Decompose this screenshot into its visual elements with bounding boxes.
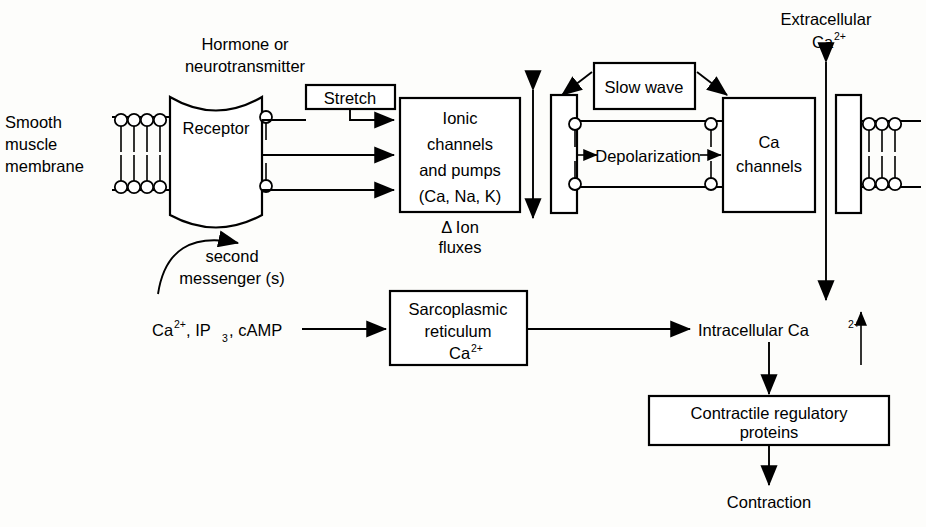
ionic-label-line4: (Ca, Na, K) <box>419 187 502 205</box>
ca-channels-line2: channels <box>736 157 802 175</box>
ionic-label-line3: and pumps <box>419 161 501 179</box>
receptor-box[interactable] <box>170 97 262 228</box>
slow-wave-label: Slow wave <box>605 78 684 96</box>
messengers-tail: , cAMP <box>229 321 282 339</box>
second-messenger-line1: second <box>205 247 258 265</box>
ca-channels-line1: Ca <box>758 133 780 151</box>
messengers-rest: , IP <box>186 321 211 339</box>
lipid-heads-middle-right <box>705 118 717 190</box>
receptor-label: Receptor <box>183 119 250 137</box>
lipid-heads-lower-left <box>115 155 166 193</box>
messengers-subscript: 3 <box>222 332 228 344</box>
sarcoplasmic-line1: Sarcoplasmic <box>408 300 507 318</box>
lipid-heads-lower-right <box>863 156 901 190</box>
ionic-label-line1: Ionic <box>443 109 478 127</box>
extracellular-ion-base: Ca <box>812 33 834 51</box>
stretch-label: Stretch <box>324 89 376 107</box>
membrane-label-line3: membrane <box>5 157 84 175</box>
membrane-label-line2: muscle <box>5 135 57 153</box>
hormone-label-line1: Hormone or <box>201 35 289 53</box>
ionic-label-line2: channels <box>427 135 493 153</box>
messengers-superscript: 2+ <box>174 318 186 330</box>
contractile-line1: Contractile regulatory <box>691 404 849 422</box>
receptor-to-ionic-arrows <box>262 109 394 190</box>
smooth-muscle-membrane-left <box>112 114 172 193</box>
second-messenger-line2: messenger (s) <box>179 269 284 287</box>
sarcoplasmic-ion-superscript: 2+ <box>471 342 483 354</box>
sarcoplasmic-line2: reticulum <box>425 322 492 340</box>
depolarization-label: Depolarization <box>595 147 700 165</box>
contraction-label: Contraction <box>727 493 811 511</box>
messengers-base: Ca <box>152 321 174 339</box>
diagram-canvas: Hormone or neurotransmitter Smooth muscl… <box>0 0 926 527</box>
intracellular-ca-base: Intracellular Ca <box>698 321 810 339</box>
smooth-muscle-membrane-right <box>836 95 921 213</box>
ion-flux-line2: fluxes <box>438 238 481 256</box>
extracellular-ion-superscript: 2+ <box>834 30 846 42</box>
ion-flux-line1: Δ Ion <box>441 218 479 236</box>
contractile-line2: proteins <box>740 423 799 441</box>
lipid-heads-upper-right <box>863 118 901 152</box>
sarcoplasmic-ion-base: Ca <box>449 344 471 362</box>
hormone-label-line2: neurotransmitter <box>185 57 306 75</box>
lipid-heads-upper-left <box>115 114 166 152</box>
intracellular-ca-superscript: 2+ <box>848 318 860 330</box>
membrane-label-line1: Smooth <box>5 113 62 131</box>
extracellular-label-line1: Extracellular <box>781 10 872 28</box>
ca-channels-box[interactable] <box>723 98 815 212</box>
